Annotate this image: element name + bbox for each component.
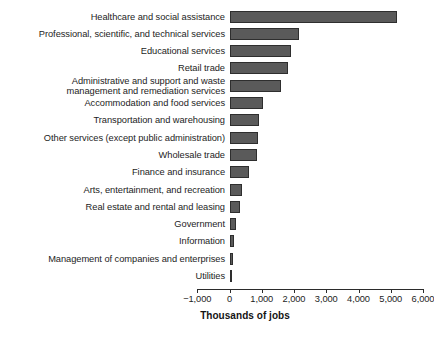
bar-category-label: Information: [179, 236, 225, 246]
bar: [230, 132, 258, 144]
x-axis-tick: [197, 289, 198, 293]
bar: [230, 184, 243, 196]
bar: [230, 235, 235, 247]
bar-row: Arts, entertainment, and recreation: [0, 181, 434, 198]
bar-row: Educational services: [0, 43, 434, 60]
x-axis-tick-label: 4,000: [347, 294, 370, 304]
x-axis-tick: [423, 289, 424, 293]
x-axis-tick: [230, 289, 231, 293]
bar-row: Transportation and warehousing: [0, 112, 434, 129]
bar: [230, 270, 232, 282]
x-axis-title: Thousands of jobs: [0, 310, 434, 321]
x-axis-tick: [262, 289, 263, 293]
bar-row: Administrative and support and waste man…: [0, 77, 434, 94]
bar-category-label: Other services (except public administra…: [44, 132, 225, 142]
bar: [230, 201, 241, 213]
bar: [230, 149, 257, 161]
bar-row: Healthcare and social assistance: [0, 8, 434, 25]
bar: [230, 166, 249, 178]
x-axis-line: [197, 289, 423, 290]
x-axis-tick-label: 5,000: [379, 294, 402, 304]
bar-category-label: Professional, scientific, and technical …: [39, 29, 225, 39]
bar: [230, 253, 234, 265]
bar-category-label: Utilities: [195, 271, 225, 281]
bar-row: Accommodation and food services: [0, 95, 434, 112]
bar: [230, 218, 236, 230]
bar-category-label: Retail trade: [178, 63, 225, 73]
bar-row: Real estate and rental and leasing: [0, 198, 434, 215]
x-axis-tick: [359, 289, 360, 293]
bar-category-label: Transportation and warehousing: [94, 115, 226, 125]
x-axis-tick-label: 1,000: [250, 294, 273, 304]
bar-category-label: Finance and insurance: [132, 167, 225, 177]
bar-category-label: Administrative and support and waste man…: [67, 75, 225, 95]
x-axis-tick-label: 6,000: [412, 294, 434, 304]
bar-row: Utilities: [0, 268, 434, 285]
x-axis-tick-label: −1,000: [183, 294, 211, 304]
bar: [230, 114, 259, 126]
bar-row: Retail trade: [0, 60, 434, 77]
x-axis-tick-label: 0: [227, 294, 232, 304]
bar-row: Government: [0, 216, 434, 233]
x-axis-tick-label: 3,000: [315, 294, 338, 304]
bar-category-label: Wholesale trade: [159, 150, 225, 160]
bar-category-label: Management of companies and enterprises: [48, 254, 225, 264]
bar-category-label: Real estate and rental and leasing: [86, 202, 225, 212]
bar-chart: Healthcare and social assistanceProfessi…: [0, 0, 434, 337]
bar-category-label: Accommodation and food services: [84, 98, 225, 108]
bar: [230, 28, 299, 40]
x-axis-tick-label: 2,000: [283, 294, 306, 304]
x-axis-tick: [326, 289, 327, 293]
bar: [230, 11, 398, 23]
bar: [230, 80, 282, 92]
bar-row: Management of companies and enterprises: [0, 250, 434, 267]
plot-area: Healthcare and social assistanceProfessi…: [0, 0, 434, 290]
bar-row: Finance and insurance: [0, 164, 434, 181]
bar: [230, 62, 288, 74]
bar: [230, 97, 264, 109]
bar-row: Professional, scientific, and technical …: [0, 25, 434, 42]
bar-row: Other services (except public administra…: [0, 129, 434, 146]
bar-row: Information: [0, 233, 434, 250]
bar-category-label: Healthcare and social assistance: [91, 11, 225, 21]
bar-row: Wholesale trade: [0, 146, 434, 163]
bar-category-label: Government: [174, 219, 225, 229]
x-axis-tick: [391, 289, 392, 293]
x-axis-tick: [294, 289, 295, 293]
bar-category-label: Educational services: [141, 46, 225, 56]
bar-category-label: Arts, entertainment, and recreation: [84, 184, 225, 194]
bar: [230, 45, 291, 57]
